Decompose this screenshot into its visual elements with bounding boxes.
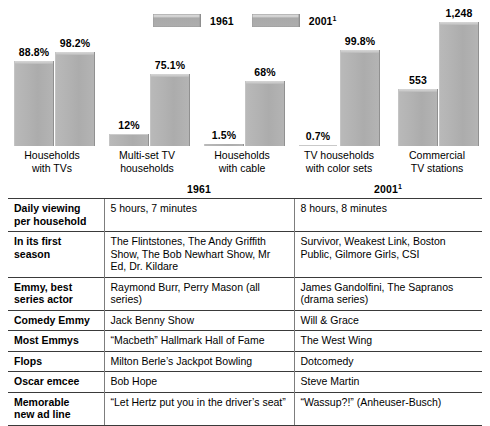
row-value-1961: 5 hours, 7 minutes — [104, 199, 294, 232]
table-row: Comedy Emmy Jack Benny Show Will & Grace — [8, 310, 482, 331]
category-label-households-with-tvs: Households with TVs — [8, 149, 96, 175]
table-header-2001: 20011 — [294, 182, 482, 199]
bar-2001-households-with-cable: 68% — [245, 81, 285, 146]
bar-1961-households-with-cable: 1.5% — [204, 144, 244, 146]
table-header-blank — [8, 182, 104, 199]
row-label-most-emmys: Most Emmys — [8, 331, 104, 352]
bar-value-2001: 75.1% — [155, 59, 185, 71]
bar-value-1961: 0.7% — [306, 130, 330, 142]
table-row: In its first season The Flintstones, The… — [8, 232, 482, 278]
row-label-oscar-emcee: Oscar emcee — [8, 372, 104, 393]
bar-chart: 1961 20011 88.8% 98.2% Households with T… — [0, 0, 490, 182]
bar-value-1961: 88.8% — [19, 46, 49, 58]
table-row: Daily viewing per household 5 hours, 7 m… — [8, 199, 482, 232]
bar-value-1961: 1.5% — [212, 129, 236, 141]
bar-2001-households-with-tvs: 98.2% — [55, 52, 95, 146]
bar-group-households-with-tvs: 88.8% 98.2% Households with TVs — [8, 0, 96, 146]
row-value-2001: James Gandolfini, The Sapranos (drama se… — [294, 277, 482, 310]
category-label-households-with-cable: Households with cable — [198, 149, 286, 175]
table-footnote-marker: 1 — [398, 183, 402, 190]
row-value-1961: Milton Berle’s Jackpot Bowling — [104, 351, 294, 372]
bar-group-households-with-cable: 1.5% 68% Households with cable — [198, 0, 286, 146]
row-value-2001: 8 hours, 8 minutes — [294, 199, 482, 232]
bar-group-tv-households-with-color-sets: 0.7% 99.8% TV households with color sets — [293, 0, 385, 146]
bar-1961-tv-households-with-color-sets: 0.7% — [299, 145, 337, 146]
category-label-multiset-tv-households: Multi-set TV households — [103, 149, 191, 175]
bar-value-1961: 12% — [118, 119, 139, 131]
table-header-1961: 1961 — [104, 182, 294, 199]
row-label-in-its-first-season: In its first season — [8, 232, 104, 278]
row-value-2001: Steve Martin — [294, 372, 482, 393]
row-value-2001: Survivor, Weakest Link, Boston Public, G… — [294, 232, 482, 278]
bar-2001-tv-households-with-color-sets: 99.8% — [340, 50, 380, 146]
bar-value-2001: 98.2% — [60, 37, 90, 49]
row-label-daily-viewing: Daily viewing per household — [8, 199, 104, 232]
bar-value-2001: 1,248 — [446, 7, 473, 19]
chart-plot-area: 88.8% 98.2% Households with TVs 12% 75.1… — [0, 0, 490, 146]
row-value-2001: Will & Grace — [294, 310, 482, 331]
bar-2001-multiset-tv-households: 75.1% — [150, 74, 190, 146]
row-value-1961: “Let Hertz put you in the driver’s seat” — [104, 392, 294, 425]
comparison-table: 1961 20011 Daily viewing per household 5… — [8, 182, 482, 426]
category-label-commercial-tv-stations: Commercial TV stations — [392, 149, 482, 175]
bar-value-2001: 68% — [254, 66, 275, 78]
table-row: Most Emmys “Macbeth” Hallmark Hall of Fa… — [8, 331, 482, 352]
table-row: Oscar emcee Bob Hope Steve Martin — [8, 372, 482, 393]
bar-2001-commercial-tv-stations: 1,248 — [439, 22, 479, 146]
table-row: Flops Milton Berle’s Jackpot Bowling Dot… — [8, 351, 482, 372]
row-label-memorable-new-ad-line: Memorable new ad line — [8, 392, 104, 425]
bar-value-2001: 99.8% — [345, 35, 375, 47]
category-label-tv-households-with-color-sets: TV households with color sets — [293, 149, 385, 175]
bar-value-1961: 553 — [409, 74, 427, 86]
row-value-1961: “Macbeth” Hallmark Hall of Fame — [104, 331, 294, 352]
table-header-row: 1961 20011 — [8, 182, 482, 199]
row-label-comedy-emmy: Comedy Emmy — [8, 310, 104, 331]
row-value-1961: Raymond Burr, Perry Mason (all series) — [104, 277, 294, 310]
row-label-flops: Flops — [8, 351, 104, 372]
bar-group-multiset-tv-households: 12% 75.1% Multi-set TV households — [103, 0, 191, 146]
bar-1961-commercial-tv-stations: 553 — [398, 89, 438, 146]
row-value-1961: Bob Hope — [104, 372, 294, 393]
row-value-2001: “Wassup?!” (Anheuser-Busch) — [294, 392, 482, 425]
bar-group-commercial-tv-stations: 553 1,248 Commercial TV stations — [392, 0, 482, 146]
row-value-2001: Dotcomedy — [294, 351, 482, 372]
comparison-table-wrapper: 1961 20011 Daily viewing per household 5… — [8, 182, 482, 426]
row-value-2001: The West Wing — [294, 331, 482, 352]
table-row: Memorable new ad line “Let Hertz put you… — [8, 392, 482, 425]
row-label-emmy-best-series-actor: Emmy, best series actor — [8, 277, 104, 310]
table-row: Emmy, best series actor Raymond Burr, Pe… — [8, 277, 482, 310]
bar-1961-multiset-tv-households: 12% — [109, 134, 149, 146]
row-value-1961: The Flintstones, The Andy Griffith Show,… — [104, 232, 294, 278]
bar-1961-households-with-tvs: 88.8% — [14, 61, 54, 146]
row-value-1961: Jack Benny Show — [104, 310, 294, 331]
